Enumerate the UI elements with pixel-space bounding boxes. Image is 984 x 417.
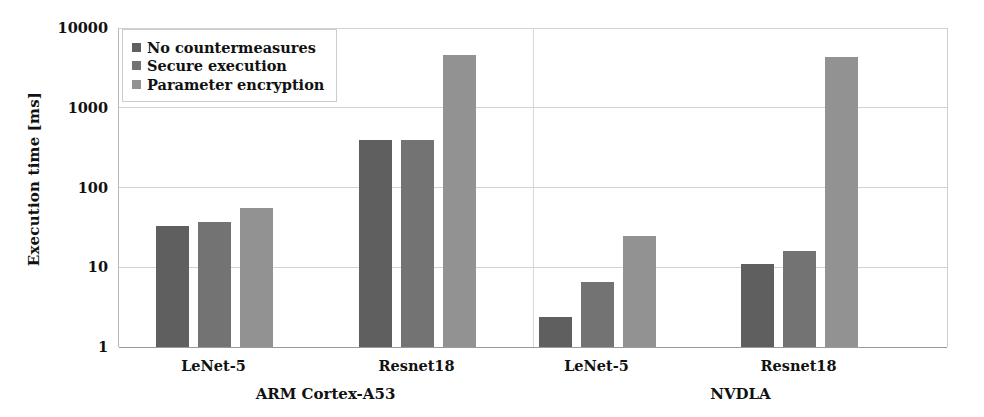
x-group-label-nvdla: NVDLA [533, 385, 948, 403]
y-tick-label-10000: 10000 [0, 19, 108, 36]
legend: No countermeasuresSecure executionParame… [122, 29, 337, 102]
legend-item-label: Secure execution [147, 57, 287, 74]
x-group-label-arm-cortex-a53: ARM Cortex-A53 [118, 385, 533, 403]
legend-item-label: No countermeasures [147, 39, 316, 56]
bar-nvdla-resnet18-parameter-encryption [825, 57, 858, 347]
platform-separator [533, 28, 534, 347]
bar-nvdla-resnet18-no-countermeasures [741, 264, 774, 347]
figure-root: Execution time [ms] 110100100010000 LeNe… [0, 0, 984, 417]
bar-nvdla-resnet18-secure-execution [783, 251, 816, 347]
bar-arm-cortex-a53-resnet18-parameter-encryption [443, 55, 476, 347]
bar-nvdla-lenet-5-secure-execution [581, 282, 614, 347]
legend-swatch-icon [132, 61, 141, 70]
legend-swatch-icon [132, 43, 141, 52]
bar-nvdla-lenet-5-parameter-encryption [623, 236, 656, 347]
y-tick-label-1: 1 [0, 338, 108, 355]
x-tick-label-lenet-5: LeNet-5 [115, 357, 312, 374]
bar-arm-cortex-a53-lenet-5-secure-execution [198, 222, 231, 347]
legend-item: Secure execution [132, 57, 324, 74]
legend-swatch-icon [132, 80, 141, 89]
x-tick-label-resnet18: Resnet18 [700, 357, 897, 374]
legend-item: Parameter encryption [132, 76, 324, 93]
y-tick-label-100: 100 [0, 179, 108, 196]
legend-item: No countermeasures [132, 39, 324, 56]
y-tick-label-1000: 1000 [0, 99, 108, 116]
y-tick-label-10: 10 [0, 258, 108, 275]
x-tick-label-resnet18: Resnet18 [318, 357, 515, 374]
bar-arm-cortex-a53-resnet18-secure-execution [401, 140, 434, 347]
bar-arm-cortex-a53-lenet-5-parameter-encryption [240, 208, 273, 347]
bar-arm-cortex-a53-lenet-5-no-countermeasures [156, 226, 189, 347]
bar-arm-cortex-a53-resnet18-no-countermeasures [359, 140, 392, 347]
bar-nvdla-lenet-5-no-countermeasures [539, 317, 572, 347]
legend-item-label: Parameter encryption [147, 76, 324, 93]
x-tick-label-lenet-5: LeNet-5 [498, 357, 695, 374]
